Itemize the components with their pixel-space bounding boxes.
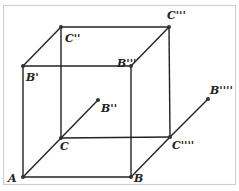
- point-B: [129, 175, 133, 179]
- point-C3: [167, 25, 171, 29]
- label-B4: B'''': [209, 84, 233, 97]
- label-C3: C''': [167, 9, 186, 22]
- label-B3: B''': [116, 57, 136, 70]
- cube-diagram: ABCC''''B'B'''C''C'''B''B'''': [0, 0, 239, 191]
- label-C2: C'': [65, 32, 81, 45]
- label-Bp: B': [25, 71, 39, 84]
- point-A: [21, 175, 25, 179]
- point-B4: [206, 97, 210, 101]
- point-Bp: [21, 64, 25, 68]
- label-C4: C'''': [172, 139, 194, 152]
- label-A: A: [7, 172, 17, 185]
- label-B: B: [133, 172, 143, 185]
- edge-C3-C4: [169, 27, 170, 137]
- label-B2: B'': [100, 102, 117, 115]
- point-C2: [59, 25, 63, 29]
- edge-C-C4: [61, 137, 170, 138]
- point-B2: [96, 98, 100, 102]
- diagram-frame: [4, 6, 236, 185]
- label-C: C: [60, 140, 69, 153]
